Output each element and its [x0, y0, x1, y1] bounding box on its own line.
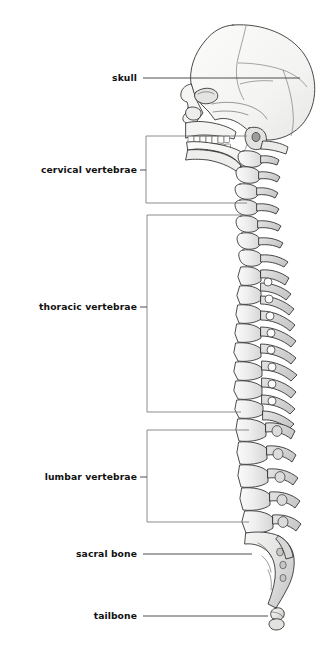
spine-diagram: skull cervical vertebrae thoracic verteb…	[0, 0, 329, 659]
label-lumbar-vertebrae: lumbar vertebrae	[45, 471, 137, 482]
thoracic-processes	[261, 270, 297, 429]
label-thoracic-vertebrae: thoracic vertebrae	[39, 301, 137, 312]
label-tailbone: tailbone	[94, 610, 137, 621]
bracket-group	[140, 136, 249, 522]
lumbar-bracket	[140, 430, 249, 522]
label-sacral-bone: sacral bone	[76, 548, 137, 559]
skull-graphic	[181, 25, 315, 172]
label-group: skull cervical vertebrae thoracic verteb…	[39, 72, 137, 621]
label-skull: skull	[112, 72, 137, 83]
label-cervical-vertebrae: cervical vertebrae	[41, 164, 137, 175]
cervical-vertebrae-graphic	[235, 151, 288, 267]
thoracic-bracket	[140, 215, 241, 412]
lumbar-vertebrae-graphic	[236, 419, 301, 534]
sacral-bone-graphic	[245, 532, 294, 608]
lumbar-processes	[266, 423, 301, 531]
tailbone-graphic	[269, 608, 284, 630]
thoracic-vertebrae-graphic	[234, 267, 297, 429]
